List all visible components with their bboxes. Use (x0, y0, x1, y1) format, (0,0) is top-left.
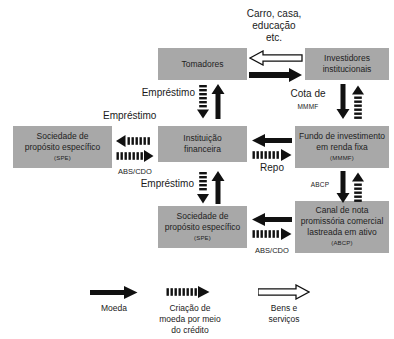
node-canal-abcp: Canal de nota promissória comercial last… (295, 201, 389, 253)
label-carro-casa-line3: etc. (266, 32, 282, 43)
node-spe-bottom-abbr: (SPE) (194, 233, 211, 244)
node-abcp-line2: promissória comercial (301, 216, 384, 227)
label-emprestimo-spe-bottom-text: Empréstimo (141, 178, 194, 189)
label-abcp-text: ABCP (311, 181, 330, 188)
node-investidores-institucionais: Investidores institucionais (305, 48, 389, 80)
legend-label-criacao-moeda: Criação de moeda por meio do crédito (150, 303, 230, 336)
label-repo: Repo (248, 162, 296, 174)
label-cota-de-abbr: MMMF (281, 101, 335, 113)
label-carro-casa-line1: Carro, casa, (247, 8, 301, 19)
legend-bens-line2: serviços (268, 314, 299, 324)
legend-arrow-striped-criacao-moeda (166, 286, 210, 298)
node-fundo-line1: Fundo de investimento (299, 131, 385, 142)
label-emprestimo-spe-top-text: Empréstimo (103, 110, 156, 121)
label-emprestimo-tomadores-text: Empréstimo (142, 87, 195, 98)
arrow-striped-down-emprestimo-tomadores (197, 85, 209, 119)
node-tomadores: Tomadores (158, 48, 247, 80)
arrow-striped-right-abs-cdo-top (116, 150, 154, 162)
node-instituicao-line2: financeira (184, 144, 221, 155)
node-tomadores-line1: Tomadores (181, 59, 223, 70)
label-abs-cdo-bottom-text: ABS/CDO (255, 246, 289, 255)
arrow-solid-left-moeda-fundo-instituicao (252, 134, 292, 147)
arrow-solid-up-moeda-spe-bottom (211, 171, 225, 204)
node-spe-top-abbr: (SPE) (54, 153, 71, 164)
label-abs-cdo-bottom: ABS/CDO (248, 245, 296, 257)
label-repo-text: Repo (260, 162, 284, 173)
arrow-solid-left-moeda-abcp-spe (252, 213, 292, 226)
node-abcp-abbr: (ABCP) (331, 238, 353, 249)
label-emprestimo-spe-top: Empréstimo (103, 110, 169, 122)
legend-label-moeda: Moeda (78, 303, 150, 314)
legend-arrow-solid-moeda (90, 286, 138, 299)
node-investidores-line2: institucionais (323, 64, 372, 75)
node-investidores-line1: Investidores (324, 53, 370, 64)
node-spe-top-line2: propósito específico (25, 142, 101, 153)
node-fundo-abbr: (MMMF) (330, 153, 354, 164)
legend-bens-line1: Bens e (271, 303, 297, 313)
legend-criacao-line3: do crédito (171, 325, 208, 335)
arrow-striped-up-abcp (352, 172, 364, 204)
arrow-solid-down-moeda-fundo-abcp (336, 171, 350, 203)
label-carro-casa-line2: educação (252, 20, 295, 31)
legend-label-bens-servicos: Bens e serviços (248, 303, 320, 325)
arrow-solid-down-moeda-investidores-fundo (336, 84, 350, 119)
legend-criacao-line1: Criação de (169, 303, 210, 313)
shadow-banking-flow-diagram: Tomadores Investidores institucionais So… (0, 0, 394, 339)
label-cota-de-abbr-text: MMMF (297, 103, 318, 110)
node-spe-bottom-line1: Sociedade de (177, 211, 229, 222)
node-spe-bottom: Sociedade de propósito específico (SPE) (158, 206, 247, 248)
node-fundo-line2: em renda fixa (316, 142, 368, 153)
arrow-striped-down-emprestimo-spe-bottom (197, 172, 209, 204)
label-carro-casa-educacao: Carro, casa, educação etc. (232, 8, 316, 44)
arrow-solid-right-moeda-tomadores-investidores (249, 68, 303, 82)
label-cota-de: Cota de (281, 88, 335, 100)
label-cota-de-text: Cota de (290, 88, 325, 99)
node-spe-top-line1: Sociedade de (37, 131, 89, 142)
label-abcp: ABCP (306, 179, 334, 191)
label-abs-cdo-top-text: ABS/CDO (118, 167, 152, 176)
node-abcp-line3: lastreada em ativo (307, 227, 376, 238)
label-emprestimo-spe-bottom: Empréstimo (124, 178, 194, 190)
node-abcp-line1: Canal de nota (316, 205, 369, 216)
node-instituicao-financeira: Instituição financeira (158, 126, 247, 162)
legend-moeda-line1: Moeda (101, 303, 127, 313)
node-spe-bottom-line2: propósito específico (165, 222, 241, 233)
arrow-striped-up-cota-mmmf (352, 85, 364, 119)
label-emprestimo-tomadores: Empréstimo (129, 87, 195, 99)
legend-arrow-hollow-bens-servicos (258, 284, 310, 300)
node-fundo-renda-fixa: Fundo de investimento em renda fixa (MMM… (295, 126, 389, 168)
arrow-striped-left-emprestimo-spe-top (116, 135, 154, 147)
arrow-striped-right-repo (252, 149, 292, 161)
arrow-hollow-left-bens-servicos (249, 50, 303, 66)
arrow-striped-right-abs-cdo-bottom (252, 228, 292, 240)
arrow-solid-up-moeda-tomadores (211, 84, 225, 119)
label-abs-cdo-top: ABS/CDO (111, 166, 159, 178)
legend-criacao-line2: moeda por meio (159, 314, 220, 324)
node-instituicao-line1: Instituição (183, 133, 221, 144)
node-spe-top: Sociedade de propósito específico (SPE) (13, 126, 112, 168)
